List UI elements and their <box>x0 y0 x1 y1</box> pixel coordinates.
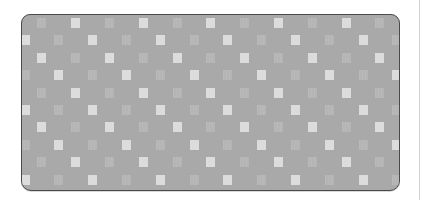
bright-square <box>37 53 46 63</box>
faint-square <box>257 175 266 185</box>
bright-square <box>223 175 232 185</box>
bright-square <box>291 175 300 185</box>
faint-square <box>122 105 131 115</box>
bright-square <box>257 70 266 80</box>
bright-square <box>105 122 114 132</box>
faint-square <box>122 175 131 185</box>
bright-square <box>392 70 400 80</box>
faint-square <box>342 122 351 132</box>
faint-square <box>308 88 317 98</box>
faint-square <box>375 18 384 28</box>
faint-square <box>190 105 199 115</box>
faint-square <box>375 88 384 98</box>
bright-square <box>190 140 199 150</box>
faint-square <box>223 70 232 80</box>
faint-square <box>257 105 266 115</box>
faint-square <box>359 140 368 150</box>
faint-square <box>190 175 199 185</box>
bright-square <box>359 175 368 185</box>
faint-square <box>291 70 300 80</box>
bright-square <box>88 105 97 115</box>
faint-square <box>274 53 283 63</box>
bright-square <box>206 88 215 98</box>
bright-square <box>88 35 97 45</box>
faint-square <box>392 175 400 185</box>
bright-square <box>375 53 384 63</box>
bright-square <box>325 70 334 80</box>
bright-square <box>240 53 249 63</box>
bright-square <box>274 157 283 167</box>
faint-square <box>37 88 46 98</box>
bright-square <box>173 53 182 63</box>
bright-square <box>342 157 351 167</box>
bright-square <box>325 140 334 150</box>
bright-square <box>156 35 165 45</box>
bright-square <box>21 175 30 185</box>
faint-square <box>139 53 148 63</box>
faint-square <box>274 122 283 132</box>
faint-square <box>291 140 300 150</box>
bright-square <box>223 105 232 115</box>
faint-square <box>105 88 114 98</box>
faint-square <box>206 122 215 132</box>
faint-square <box>392 35 400 45</box>
faint-square <box>21 140 30 150</box>
bright-square <box>139 88 148 98</box>
bright-square <box>359 35 368 45</box>
faint-square <box>173 18 182 28</box>
faint-square <box>88 70 97 80</box>
faint-square <box>156 140 165 150</box>
faint-square <box>240 88 249 98</box>
bright-square <box>308 53 317 63</box>
faint-square <box>325 175 334 185</box>
faint-square <box>206 53 215 63</box>
faint-square <box>240 18 249 28</box>
faint-square <box>325 35 334 45</box>
faint-square <box>105 18 114 28</box>
faint-square <box>139 122 148 132</box>
faint-square <box>359 70 368 80</box>
vertical-divider <box>419 0 420 200</box>
faint-square <box>105 157 114 167</box>
bright-square <box>375 122 384 132</box>
bright-square <box>54 70 63 80</box>
faint-square <box>173 88 182 98</box>
bright-square <box>359 105 368 115</box>
bright-square <box>88 175 97 185</box>
faint-square <box>122 35 131 45</box>
bright-square <box>257 140 266 150</box>
faint-square <box>156 70 165 80</box>
bright-square <box>21 105 30 115</box>
faint-square <box>375 157 384 167</box>
faint-square <box>71 53 80 63</box>
bright-square <box>37 122 46 132</box>
faint-square <box>257 35 266 45</box>
bright-square <box>54 140 63 150</box>
bright-square <box>308 122 317 132</box>
bright-square <box>291 35 300 45</box>
bright-square <box>274 18 283 28</box>
bright-square <box>190 70 199 80</box>
faint-square <box>71 122 80 132</box>
faint-square <box>308 18 317 28</box>
bright-square <box>206 18 215 28</box>
bright-square <box>291 105 300 115</box>
faint-square <box>325 105 334 115</box>
faint-square <box>54 175 63 185</box>
bright-square <box>71 88 80 98</box>
bright-square <box>122 70 131 80</box>
faint-square <box>37 18 46 28</box>
faint-square <box>54 105 63 115</box>
bright-square <box>156 105 165 115</box>
faint-square <box>21 70 30 80</box>
bright-square <box>105 53 114 63</box>
bright-square <box>139 157 148 167</box>
pattern-swatch <box>21 14 400 191</box>
bright-square <box>71 157 80 167</box>
faint-square <box>308 157 317 167</box>
bright-square <box>139 18 148 28</box>
faint-square <box>392 105 400 115</box>
bright-square <box>122 140 131 150</box>
faint-square <box>54 35 63 45</box>
faint-square <box>190 35 199 45</box>
